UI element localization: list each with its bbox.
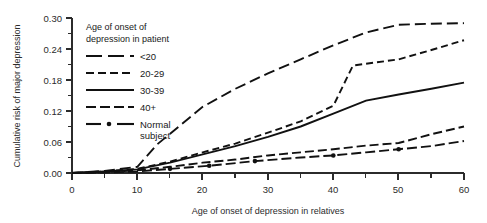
x-tick-label: 40	[328, 184, 339, 195]
legend-label-normal-subject-line2: subject	[140, 130, 170, 141]
legend-swatch-normal-subject-dot	[107, 122, 112, 127]
x-tick-label: 20	[197, 184, 208, 195]
series-marker	[396, 147, 401, 152]
x-tick-label: 10	[132, 184, 143, 195]
y-tick-label: 0.30	[44, 13, 63, 24]
legend-label-normal-subject-line1: Normal	[140, 119, 171, 130]
legend-title-line1: Age of onset of	[86, 22, 147, 32]
legend-label-40-plus: 40+	[140, 102, 157, 113]
y-tick-label: 0.12	[44, 106, 63, 117]
x-tick-label: 60	[459, 184, 470, 195]
legend-label-20-29: 20-29	[140, 68, 164, 79]
x-tick-label: 50	[393, 184, 404, 195]
series-marker	[207, 163, 212, 168]
y-tick-label: 0.18	[44, 75, 63, 86]
legend-label-under-20: <20	[140, 51, 156, 62]
series-marker	[168, 167, 173, 172]
chart-figure: 0.00 0.06 0.12 0.18 0.24 0.30 0	[0, 0, 487, 223]
series-marker	[331, 153, 336, 158]
y-axis-title: Cumulative risk of major depression	[12, 24, 22, 167]
legend-title-line2: depression in patient	[86, 34, 170, 44]
x-tick-label: 0	[69, 184, 74, 195]
series-marker	[253, 159, 258, 164]
cumulative-risk-line-chart: 0.00 0.06 0.12 0.18 0.24 0.30 0	[0, 0, 487, 223]
x-axis-title: Age of onset of depression in relatives	[192, 206, 345, 216]
legend-label-30-39: 30-39	[140, 85, 164, 96]
y-tick-label: 0.24	[44, 44, 63, 55]
x-tick-label: 30	[263, 184, 274, 195]
y-tick-label: 0.06	[44, 137, 63, 148]
y-tick-label: 0.00	[44, 168, 63, 179]
